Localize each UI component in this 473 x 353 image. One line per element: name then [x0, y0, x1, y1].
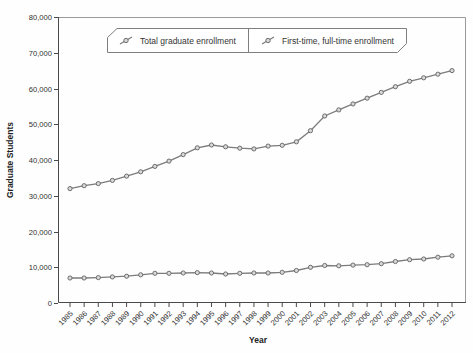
- data-point-marker: [82, 184, 86, 188]
- data-point-marker: [181, 271, 185, 275]
- data-point-marker: [153, 164, 157, 168]
- data-point-marker: [181, 153, 185, 157]
- legend-item-first-time-enrollment: First-time, full-time enrollment: [248, 28, 407, 53]
- legend-label-total: Total graduate enrollment: [140, 36, 236, 46]
- data-point-marker: [266, 144, 270, 148]
- series-first-time: [68, 254, 454, 280]
- data-point-marker: [110, 178, 114, 182]
- data-point-marker: [195, 271, 199, 275]
- data-point-marker: [68, 187, 72, 191]
- data-point-marker: [323, 263, 327, 267]
- x-tick-label: 2012: [439, 309, 457, 327]
- data-point-marker: [125, 274, 129, 278]
- y-tick-label: 10,000: [29, 263, 52, 272]
- legend: Total graduate enrollment First-time, fu…: [107, 28, 407, 53]
- data-point-marker: [209, 271, 213, 275]
- data-point-marker: [167, 159, 171, 163]
- data-point-marker: [393, 85, 397, 89]
- slanted-line-marker-icon: [119, 35, 134, 46]
- y-tick-label: 20,000: [29, 228, 52, 237]
- data-point-marker: [379, 90, 383, 94]
- data-point-marker: [252, 147, 256, 151]
- data-point-marker: [195, 146, 199, 150]
- y-tick-label: 0: [48, 299, 52, 308]
- enrollment-line-chart: 010,00020,00030,00040,00050,00060,00070,…: [0, 0, 473, 353]
- y-tick-label: 80,000: [29, 13, 52, 22]
- data-point-marker: [308, 265, 312, 269]
- data-point-marker: [252, 271, 256, 275]
- y-tick-label: 60,000: [29, 85, 52, 94]
- data-point-marker: [422, 257, 426, 261]
- data-point-marker: [323, 114, 327, 118]
- data-point-marker: [96, 276, 100, 280]
- data-point-marker: [238, 146, 242, 150]
- data-point-marker: [365, 263, 369, 267]
- data-point-marker: [280, 270, 284, 274]
- legend-label-first-time: First-time, full-time enrollment: [282, 36, 394, 46]
- data-point-marker: [125, 174, 129, 178]
- data-point-marker: [153, 271, 157, 275]
- data-point-marker: [408, 258, 412, 262]
- data-point-marker: [294, 268, 298, 272]
- data-point-marker: [337, 108, 341, 112]
- data-point-marker: [209, 143, 213, 147]
- data-point-marker: [68, 276, 72, 280]
- data-point-marker: [351, 102, 355, 106]
- data-point-marker: [110, 275, 114, 279]
- data-point-marker: [422, 76, 426, 80]
- data-point-marker: [436, 72, 440, 76]
- data-point-marker: [238, 271, 242, 275]
- data-point-marker: [139, 273, 143, 277]
- data-point-marker: [351, 263, 355, 267]
- x-tick-label: 2011: [425, 309, 443, 327]
- data-point-marker: [96, 182, 100, 186]
- data-point-marker: [139, 170, 143, 174]
- x-axis: 1985198619871988198919901991199219931994…: [57, 303, 457, 327]
- y-axis-title: Graduate Students: [5, 122, 15, 198]
- series-total: [68, 69, 454, 191]
- x-axis-title: Year: [249, 335, 267, 345]
- data-point-marker: [294, 140, 298, 144]
- data-point-marker: [167, 271, 171, 275]
- data-point-marker: [379, 262, 383, 266]
- data-point-marker: [450, 69, 454, 73]
- data-point-marker: [224, 145, 228, 149]
- y-axis: 010,00020,00030,00040,00050,00060,00070,…: [29, 13, 58, 308]
- data-point-marker: [450, 254, 454, 258]
- legend-item-total-enrollment: Total graduate enrollment: [107, 28, 248, 53]
- y-tick-label: 40,000: [29, 156, 52, 165]
- data-point-marker: [365, 96, 369, 100]
- slanted-line-marker-icon: [261, 35, 276, 46]
- y-tick-label: 30,000: [29, 192, 52, 201]
- data-point-marker: [308, 129, 312, 133]
- data-point-marker: [436, 255, 440, 259]
- data-point-marker: [408, 79, 412, 83]
- y-tick-label: 50,000: [29, 120, 52, 129]
- data-point-marker: [224, 272, 228, 276]
- data-point-marker: [82, 276, 86, 280]
- data-point-marker: [337, 264, 341, 268]
- data-point-marker: [280, 143, 284, 147]
- y-tick-label: 70,000: [29, 49, 52, 58]
- data-point-marker: [393, 259, 397, 263]
- data-point-marker: [266, 271, 270, 275]
